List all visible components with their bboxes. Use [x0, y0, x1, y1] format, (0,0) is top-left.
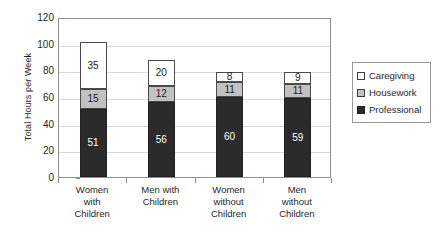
- x-tick-mark: [58, 178, 59, 183]
- bar-segment-caregiving[interactable]: 9: [284, 72, 311, 84]
- bar-segment-value: 11: [293, 86, 303, 96]
- bar-segment-professional[interactable]: 51: [80, 109, 107, 177]
- y-tick-label: 0: [22, 173, 54, 183]
- bar-segment-housework[interactable]: 11: [284, 84, 311, 99]
- legend-swatch-icon: [357, 106, 365, 114]
- legend-label: Professional: [369, 105, 421, 115]
- x-axis-label-line: Children: [58, 208, 126, 220]
- x-axis-label-line: Women: [195, 184, 263, 196]
- bar-segment-value: 20: [156, 68, 167, 78]
- bar-segment-value: 59: [292, 133, 303, 143]
- y-tick-label: 100: [22, 40, 54, 50]
- bar-segment-value: 60: [224, 132, 235, 142]
- bar-group[interactable]: 60118: [216, 19, 243, 177]
- bar-segment-value: 8: [227, 72, 233, 82]
- x-axis-label: Men withChildren: [126, 184, 194, 208]
- bar-segment-professional[interactable]: 59: [284, 98, 311, 177]
- bar-segment-caregiving[interactable]: 20: [148, 60, 175, 87]
- bar-segment-value: 12: [156, 89, 167, 99]
- legend-item[interactable]: Caregiving: [357, 67, 426, 84]
- bar-segment-value: 56: [156, 135, 167, 145]
- x-axis-label-line: Children: [195, 208, 263, 220]
- legend-item[interactable]: Housework: [357, 84, 426, 101]
- legend-swatch-icon: [357, 89, 365, 97]
- y-tick-label: 40: [22, 120, 54, 130]
- bar-segment-caregiving[interactable]: 8: [216, 72, 243, 83]
- x-tick-mark: [195, 178, 196, 183]
- x-axis-label: MenwithoutChildren: [263, 184, 331, 220]
- bar-segment-housework[interactable]: 11: [216, 82, 243, 97]
- bar-segment-housework[interactable]: 12: [148, 86, 175, 102]
- x-axis-category-labels: WomenwithChildrenMen withChildrenWomenwi…: [58, 184, 331, 234]
- x-tick-mark: [331, 178, 332, 183]
- plot-area: 5115355612206011859119: [58, 18, 331, 178]
- x-axis-label: WomenwithChildren: [58, 184, 126, 220]
- x-tick-mark: [263, 178, 264, 183]
- legend-label: Caregiving: [369, 71, 414, 81]
- stacked-bar-chart: Total Hours per Week 120100806040200 511…: [0, 0, 441, 236]
- y-tick-label: 120: [22, 13, 54, 23]
- bars-layer: 5115355612206011859119: [59, 19, 330, 177]
- x-axis-label-line: Men with: [126, 184, 194, 196]
- bar-segment-value: 15: [88, 94, 99, 104]
- legend-swatch-icon: [357, 72, 365, 80]
- bar-segment-professional[interactable]: 56: [148, 102, 175, 177]
- y-tick-mark: [76, 178, 80, 179]
- bar-segment-value: 9: [295, 73, 301, 83]
- bar-segment-value: 35: [88, 61, 99, 71]
- x-axis-label-line: Men: [263, 184, 331, 196]
- y-tick-label: 60: [22, 93, 54, 103]
- x-axis-label-line: without: [263, 196, 331, 208]
- legend-label: Housework: [369, 88, 417, 98]
- bar-segment-housework[interactable]: 15: [80, 89, 107, 109]
- x-axis-label: WomenwithoutChildren: [195, 184, 263, 220]
- bar-group[interactable]: 561220: [148, 19, 175, 177]
- bar-group[interactable]: 59119: [284, 19, 311, 177]
- bar-segment-professional[interactable]: 60: [216, 97, 243, 177]
- x-axis-label-line: without: [195, 196, 263, 208]
- x-axis-label-line: Children: [126, 196, 194, 208]
- bar-group[interactable]: 511535: [80, 19, 107, 177]
- legend-item[interactable]: Professional: [357, 101, 426, 118]
- y-tick-label: 20: [22, 146, 54, 156]
- bar-segment-value: 11: [224, 85, 234, 95]
- bar-segment-value: 51: [88, 138, 99, 148]
- x-axis-label-line: with: [58, 196, 126, 208]
- x-axis-label-line: Women: [58, 184, 126, 196]
- x-axis-label-line: Children: [263, 208, 331, 220]
- bar-segment-caregiving[interactable]: 35: [80, 42, 107, 89]
- chart-legend: CaregivingHouseworkProfessional: [352, 62, 431, 123]
- y-tick-label: 80: [22, 66, 54, 76]
- x-tick-mark: [126, 178, 127, 183]
- y-axis-tick-labels: 120100806040200: [22, 18, 54, 178]
